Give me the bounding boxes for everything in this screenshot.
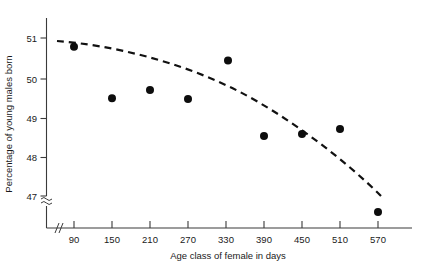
- data-point: [336, 125, 344, 133]
- y-tick-group: [41, 38, 47, 196]
- x-tick-label-450: 450: [294, 234, 310, 245]
- data-point: [224, 57, 232, 65]
- x-tick-label-570: 570: [370, 234, 386, 245]
- y-tick-label-50: 50: [26, 74, 37, 85]
- chart-figure: 51 50 49 48 47 90 150 210 270 330 390 45…: [0, 0, 427, 265]
- x-tick-label-150: 150: [104, 234, 120, 245]
- fitted-trend-curve: [57, 41, 381, 196]
- x-tick-label-390: 390: [256, 234, 272, 245]
- x-tick-label-510: 510: [332, 234, 348, 245]
- x-tick-label-90: 90: [69, 234, 80, 245]
- y-axis-title: Percentage of young males born: [3, 55, 14, 192]
- y-axis-break-icon: [41, 202, 52, 205]
- data-point: [184, 95, 192, 103]
- y-tick-label-47: 47: [26, 191, 37, 202]
- data-point: [146, 86, 154, 94]
- scatter-plot: 51 50 49 48 47 90 150 210 270 330 390 45…: [0, 0, 427, 265]
- x-tick-label-210: 210: [142, 234, 158, 245]
- data-point: [108, 94, 116, 102]
- y-tick-label-48: 48: [26, 152, 37, 163]
- y-axis-break-icon-2: [41, 198, 52, 201]
- data-point: [260, 132, 268, 140]
- y-tick-label-49: 49: [26, 113, 37, 124]
- x-tick-label-270: 270: [180, 234, 196, 245]
- y-tick-label-51: 51: [26, 33, 37, 44]
- data-point-group: [70, 43, 382, 216]
- x-tick-label-330: 330: [218, 234, 234, 245]
- data-point: [374, 208, 382, 216]
- x-tick-group: [74, 221, 378, 228]
- data-point: [298, 130, 306, 138]
- x-axis-title: Age class of female in days: [170, 250, 286, 261]
- data-point: [70, 43, 78, 51]
